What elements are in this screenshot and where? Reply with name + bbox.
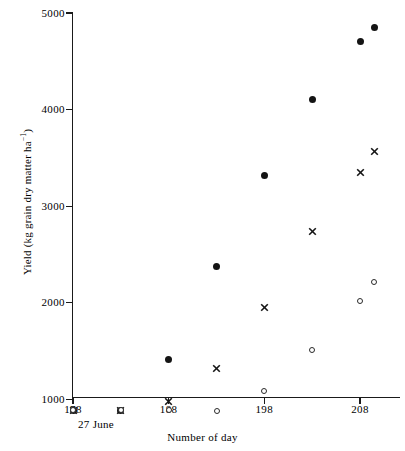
scatter-plot-figure: 10002000300040005000 178188198208 27 Jun… xyxy=(0,0,405,451)
y-axis-tick-label: 2000 xyxy=(5,297,65,308)
y-axis-title-close: ) xyxy=(21,129,33,133)
data-point-filled-circle xyxy=(309,96,316,103)
data-point-filled-circle xyxy=(357,38,364,45)
x-axis-tick-label: 208 xyxy=(336,404,384,415)
y-axis-title-base: Yield (kg grain dry matter ha xyxy=(21,141,33,275)
x-axis-tick-label: 198 xyxy=(240,404,288,415)
x-axis-line xyxy=(72,397,400,398)
x-axis-title: Number of day xyxy=(0,431,405,443)
data-point-open-circle xyxy=(118,407,124,413)
y-axis-tick xyxy=(66,109,73,110)
data-point-cross xyxy=(164,397,173,406)
y-axis-tick xyxy=(66,12,73,13)
y-axis-tick xyxy=(66,206,73,207)
y-axis-tick-label: 3000 xyxy=(5,201,65,212)
x-axis-date-annotation: 27 June xyxy=(51,419,141,430)
data-point-cross xyxy=(356,168,365,177)
data-point-open-circle xyxy=(371,279,377,285)
y-axis-tick-label: 4000 xyxy=(5,104,65,115)
data-point-filled-circle xyxy=(371,24,378,31)
data-point-filled-circle xyxy=(213,263,220,270)
data-point-cross xyxy=(370,147,379,156)
data-point-open-circle xyxy=(166,407,172,413)
y-axis-tick xyxy=(66,302,73,303)
data-point-filled-circle xyxy=(261,172,268,179)
data-point-open-circle xyxy=(214,408,220,414)
data-point-cross xyxy=(260,303,269,312)
y-axis-title-exponent: −1 xyxy=(19,133,28,141)
data-point-open-circle xyxy=(309,347,315,353)
data-point-open-circle xyxy=(357,298,363,304)
data-point-open-circle xyxy=(261,388,267,394)
data-point-cross xyxy=(308,227,317,236)
y-axis-title: Yield (kg grain dry matter ha−1) xyxy=(21,92,33,312)
data-point-filled-circle xyxy=(165,356,172,363)
data-point-cross xyxy=(212,364,221,373)
y-axis-tick-label: 5000 xyxy=(5,8,65,19)
